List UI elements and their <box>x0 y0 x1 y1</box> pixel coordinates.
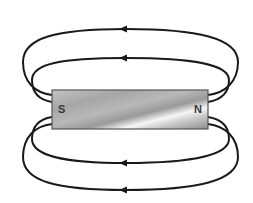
south-pole-label: S <box>58 103 65 115</box>
arrow-left-icon <box>119 160 127 167</box>
arrow-left-icon <box>119 26 127 33</box>
north-pole-label: N <box>194 103 202 115</box>
bar-magnet-field-diagram <box>0 0 253 203</box>
arrow-left-icon <box>119 187 127 194</box>
bar-magnet <box>52 90 208 129</box>
arrow-left-icon <box>119 55 127 62</box>
